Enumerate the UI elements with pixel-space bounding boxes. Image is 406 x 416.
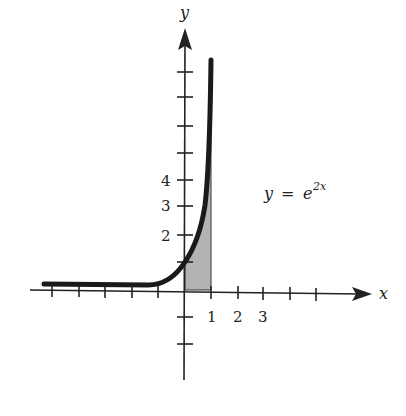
y-axis <box>184 40 185 380</box>
svg-text:y: y <box>263 184 274 203</box>
x-tick-label-3: 3 <box>258 308 268 326</box>
exponential-curve <box>44 60 211 285</box>
y-tick-label-2: 2 <box>161 227 171 245</box>
exponential-graph: y x 1 2 3 2 3 4 y = e 2x <box>0 0 406 416</box>
svg-text:=: = <box>281 184 294 203</box>
y-axis-label: y <box>179 3 190 22</box>
y-tick-label-3: 3 <box>161 197 171 215</box>
y-tick-label-4: 4 <box>161 172 171 190</box>
x-axis-label: x <box>379 284 388 303</box>
svg-text:e: e <box>303 184 312 203</box>
svg-text:2x: 2x <box>312 180 327 193</box>
x-tick-label-2: 2 <box>233 308 243 326</box>
x-tick-label-1: 1 <box>207 308 217 326</box>
equation-label: y = e 2x <box>263 180 327 203</box>
